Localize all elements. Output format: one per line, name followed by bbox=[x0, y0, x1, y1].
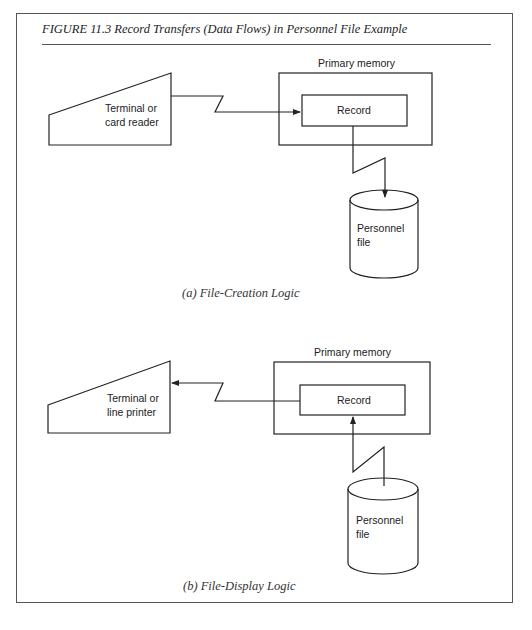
device-label-line1: Terminal or bbox=[105, 102, 157, 114]
device-label-line2: line printer bbox=[107, 406, 157, 418]
flow-record-to-file bbox=[353, 126, 385, 197]
flow-device-to-record bbox=[171, 96, 300, 112]
file-label-line1: Personnel bbox=[357, 222, 404, 234]
panel-a: Terminal or card reader Primary memory R… bbox=[49, 57, 432, 278]
panel-b: Terminal or line printer Primary memory … bbox=[48, 346, 430, 574]
diagram-canvas: Terminal or card reader Primary memory R… bbox=[0, 0, 532, 630]
terminal-card-reader: Terminal or card reader bbox=[49, 73, 171, 145]
memory-label: Primary memory bbox=[318, 57, 396, 69]
personnel-file-cylinder: Personnel file bbox=[350, 190, 418, 278]
file-label-line2: file bbox=[357, 236, 371, 248]
flow-record-to-device bbox=[172, 383, 300, 401]
record-label: Record bbox=[337, 104, 371, 116]
record-label: Record bbox=[337, 394, 371, 406]
device-label-line1: Terminal or bbox=[107, 392, 159, 404]
file-label-line2: file bbox=[356, 528, 370, 540]
device-label-line2: card reader bbox=[105, 116, 159, 128]
terminal-line-printer: Terminal or line printer bbox=[48, 361, 170, 433]
primary-memory: Primary memory Record bbox=[279, 57, 432, 145]
caption-b: (b) File-Display Logic bbox=[183, 579, 295, 594]
memory-label: Primary memory bbox=[314, 346, 392, 358]
file-label-line1: Personnel bbox=[356, 514, 403, 526]
flow-file-to-record bbox=[353, 417, 384, 486]
primary-memory: Primary memory Record bbox=[274, 346, 430, 434]
personnel-file-cylinder: Personnel file bbox=[348, 478, 418, 574]
caption-a: (a) File-Creation Logic bbox=[182, 286, 300, 301]
